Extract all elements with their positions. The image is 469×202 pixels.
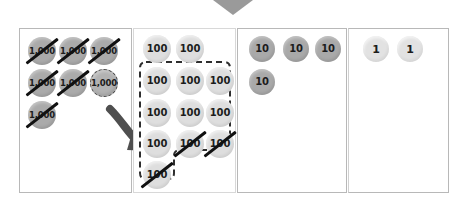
place-value-disc-hundreds: 100 bbox=[176, 130, 204, 158]
disc-label: 10 bbox=[321, 44, 335, 54]
place-value-disc-thousands: 1,000 bbox=[28, 101, 56, 129]
disc-label: 10 bbox=[255, 77, 269, 87]
disc-label: 1,000 bbox=[60, 47, 86, 56]
place-value-disc-thousands: 1,000 bbox=[59, 69, 87, 97]
disc-label: 100 bbox=[147, 108, 167, 118]
disc-label: 100 bbox=[210, 76, 230, 86]
disc-label: 1 bbox=[406, 44, 413, 55]
place-value-disc-hundreds: 100 bbox=[143, 161, 171, 189]
place-value-disc-hundreds: 100 bbox=[176, 99, 204, 127]
disc-label: 100 bbox=[210, 108, 230, 118]
disc-label: 10 bbox=[289, 44, 303, 54]
place-value-disc-hundreds: 100 bbox=[143, 130, 171, 158]
place-value-chart: 1,0001,0001,0001,0001,0001,0001,000 1001… bbox=[19, 28, 449, 193]
down-caret-icon bbox=[213, 0, 253, 15]
place-value-disc-hundreds: 100 bbox=[143, 67, 171, 95]
place-value-disc-thousands: 1,000 bbox=[90, 69, 118, 97]
place-value-disc-tens: 10 bbox=[249, 69, 275, 95]
disc-label: 100 bbox=[180, 139, 200, 149]
place-value-disc-tens: 10 bbox=[283, 36, 309, 62]
disc-label: 1 bbox=[372, 44, 379, 55]
disc-label: 1,000 bbox=[29, 47, 55, 56]
disc-label: 1,000 bbox=[29, 111, 55, 120]
place-value-disc-ones: 1 bbox=[397, 36, 423, 62]
place-value-disc-hundreds: 100 bbox=[206, 130, 234, 158]
place-value-column-hundreds: 100100100100100100100100100100100100 bbox=[133, 28, 236, 193]
place-value-disc-thousands: 1,000 bbox=[59, 37, 87, 65]
place-value-disc-hundreds: 100 bbox=[143, 35, 171, 63]
disc-label: 100 bbox=[147, 170, 167, 180]
place-value-column-ones: 11 bbox=[348, 28, 449, 193]
place-value-disc-tens: 10 bbox=[315, 36, 341, 62]
disc-label: 100 bbox=[180, 76, 200, 86]
place-value-disc-tens: 10 bbox=[249, 36, 275, 62]
place-value-column-tens: 10101010 bbox=[237, 28, 347, 193]
place-value-disc-hundreds: 100 bbox=[176, 67, 204, 95]
disc-label: 100 bbox=[147, 139, 167, 149]
disc-label: 100 bbox=[147, 76, 167, 86]
disc-label: 100 bbox=[180, 44, 200, 54]
disc-label: 10 bbox=[255, 44, 269, 54]
disc-label: 1,000 bbox=[91, 47, 117, 56]
place-value-disc-hundreds: 100 bbox=[143, 99, 171, 127]
place-value-disc-ones: 1 bbox=[363, 36, 389, 62]
place-value-disc-thousands: 1,000 bbox=[90, 37, 118, 65]
place-value-column-thousands: 1,0001,0001,0001,0001,0001,0001,000 bbox=[19, 28, 132, 193]
place-value-disc-hundreds: 100 bbox=[176, 35, 204, 63]
disc-label: 100 bbox=[147, 44, 167, 54]
disc-label: 100 bbox=[210, 139, 230, 149]
disc-label: 100 bbox=[180, 108, 200, 118]
place-value-disc-thousands: 1,000 bbox=[28, 37, 56, 65]
disc-label: 1,000 bbox=[60, 79, 86, 88]
disc-label: 1,000 bbox=[29, 79, 55, 88]
disc-label: 1,000 bbox=[91, 79, 117, 88]
place-value-disc-hundreds: 100 bbox=[206, 67, 234, 95]
place-value-disc-thousands: 1,000 bbox=[28, 69, 56, 97]
place-value-disc-hundreds: 100 bbox=[206, 99, 234, 127]
